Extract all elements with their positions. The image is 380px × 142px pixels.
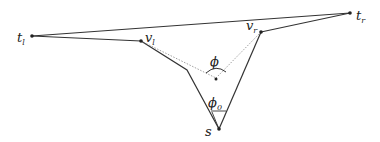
point-v-r	[259, 30, 263, 34]
point-t-l	[30, 34, 34, 38]
label-v-l: vl	[145, 30, 155, 47]
label-phi: ϕ	[210, 54, 219, 69]
diagram-canvas: tl tr vl vr ϕ ϕ0 s	[0, 0, 380, 142]
label-s: s	[205, 124, 212, 139]
label-v-r: vr	[246, 18, 258, 35]
edge-tl-tr	[32, 13, 350, 36]
label-phi-0: ϕ0	[208, 95, 222, 112]
point-center	[215, 78, 218, 81]
edge-tl-vl	[32, 36, 141, 41]
edge-vr-s	[219, 32, 261, 129]
point-t-r	[348, 11, 352, 15]
point-s	[217, 127, 221, 131]
label-t-r: tr	[356, 8, 366, 25]
dotted-vr-center	[216, 32, 261, 78]
edge-vl-s	[141, 41, 219, 129]
phi0-left	[212, 112, 219, 129]
point-v-l	[139, 39, 143, 43]
label-t-l: tl	[17, 30, 25, 47]
